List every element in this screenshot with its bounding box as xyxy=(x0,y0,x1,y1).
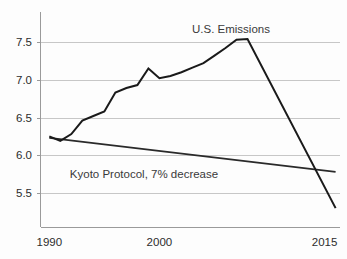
x-tick-label-2015: 2015 xyxy=(312,236,338,248)
annotation-label-0: U.S. Emissions xyxy=(192,23,270,35)
x-tick-labels-group: 199020002015 xyxy=(37,236,338,248)
y-tick-label-7.5: 7.5 xyxy=(16,36,32,48)
x-tick-label-2000: 2000 xyxy=(147,236,173,248)
series-line-kyoto-protocol xyxy=(49,138,335,172)
y-tick-label-7.0: 7.0 xyxy=(16,74,32,86)
y-tick-label-6.0: 6.0 xyxy=(16,149,32,161)
y-tick-label-6.5: 6.5 xyxy=(16,112,32,124)
x-tick-label-1990: 1990 xyxy=(37,236,63,248)
y-tick-labels-group: 7.57.06.56.05.5 xyxy=(16,36,32,199)
y-tick-label-5.5: 5.5 xyxy=(16,187,32,199)
line-chart-canvas: 7.57.06.56.05.5 199020002015 U.S. Emissi… xyxy=(0,0,347,259)
series-line-us-emissions xyxy=(49,39,335,208)
annotations-group: U.S. EmissionsKyoto Protocol, 7% decreas… xyxy=(70,23,270,180)
chart-figure: 7.57.06.56.05.5 199020002015 U.S. Emissi… xyxy=(0,0,347,259)
annotation-label-1: Kyoto Protocol, 7% decrease xyxy=(70,168,218,180)
y-tick-marks-group xyxy=(37,43,41,194)
